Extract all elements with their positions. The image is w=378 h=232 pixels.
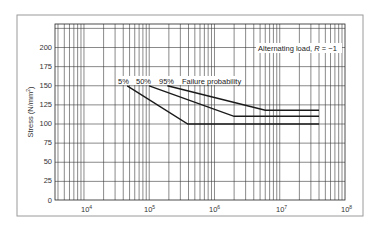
x-tick-1e7: 107 bbox=[276, 204, 287, 214]
series-label-95: 95% bbox=[159, 77, 174, 86]
series-label-5: 5% bbox=[118, 77, 129, 86]
curve-95-percent bbox=[167, 86, 319, 110]
alternating-load-annotation: Alternating load, R = −1 bbox=[258, 44, 337, 53]
failure-probability-label: Failure probability bbox=[182, 77, 241, 86]
y-axis-label: Stress (N/mm2) bbox=[25, 86, 35, 138]
x-tick-1e8: 108 bbox=[341, 204, 352, 214]
x-tick-1e5: 105 bbox=[144, 204, 155, 214]
y-tick-labels: 0 25 50 75 100 125 150 175 200 bbox=[39, 43, 52, 205]
x-tick-1e6: 106 bbox=[209, 204, 220, 214]
y-tick-100: 100 bbox=[39, 119, 52, 128]
y-tick-175: 175 bbox=[39, 62, 52, 71]
series-label-50: 50% bbox=[136, 77, 151, 86]
y-tick-0: 0 bbox=[48, 196, 52, 205]
x-tick-1e4: 104 bbox=[81, 204, 92, 214]
y-tick-75: 75 bbox=[44, 138, 52, 147]
y-tick-125: 125 bbox=[39, 100, 52, 109]
sn-fatigue-chart: 0 25 50 75 100 125 150 175 200 Stress (N… bbox=[0, 0, 378, 232]
y-tick-150: 150 bbox=[39, 81, 52, 90]
y-tick-25: 25 bbox=[44, 176, 52, 185]
y-tick-50: 50 bbox=[44, 157, 52, 166]
x-tick-labels: 104 105 106 107 108 bbox=[81, 204, 352, 214]
y-tick-200: 200 bbox=[39, 43, 52, 52]
